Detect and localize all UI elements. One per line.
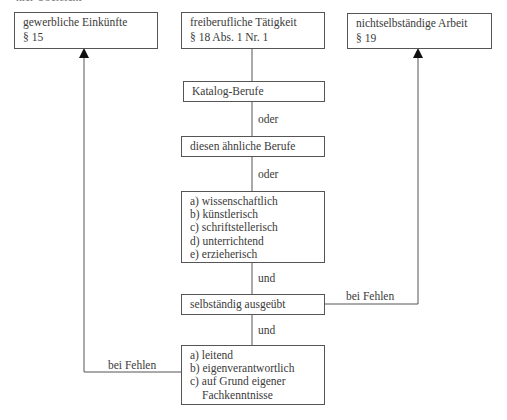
box-aehnliche-berufe: diesen ähnliche Berufe [181, 136, 325, 157]
box-text: Katalog-Berufe [192, 84, 316, 99]
criterion-item: a) wissenschaftlich [190, 195, 316, 208]
arrowhead-up-icon [79, 48, 89, 58]
box-text: selbständig ausgeübt [190, 297, 316, 312]
box-leitend-eigenverantwortlich: a) leitend b) eigenverantwortlich c) auf… [181, 345, 325, 405]
arrowhead-up-icon [413, 48, 423, 58]
criterion-item: a) leitend [190, 349, 316, 362]
criterion-item: c) schriftstellerisch [190, 221, 316, 234]
box-paragraph: § 15 [23, 30, 149, 45]
criterion-item: d) unterrichtend [190, 235, 316, 248]
box-taetigkeitsmerkmale: a) wissenschaftlich b) künstlerisch c) s… [181, 191, 325, 263]
criterion-item: c) auf Grund eigener [190, 375, 316, 388]
connector-label-bei-fehlen-right: bei Fehlen [346, 289, 394, 303]
box-nichtselbstaendige-arbeit: nichtselbständige Arbeit § 19 [347, 13, 492, 49]
box-selbstaendig-ausgeuebt: selbständig ausgeübt [181, 294, 325, 315]
box-text: diesen ähnliche Berufe [190, 139, 316, 154]
criterion-item: b) eigenverantwortlich [190, 362, 316, 375]
box-gewerbliche-einkuenfte: gewerbliche Einkünfte § 15 [14, 12, 158, 49]
connector-label-bei-fehlen-left: bei Fehlen [108, 358, 156, 372]
box-paragraph: § 18 Abs. 1 Nr. 1 [190, 30, 316, 45]
connector-label-und: und [258, 271, 275, 285]
connector-label-und: und [258, 323, 275, 337]
connector-label-oder: oder [258, 112, 278, 126]
box-title: freiberufliche Tätigkeit [190, 15, 316, 30]
criterion-item-continuation: Fachkenntnisse [190, 389, 316, 402]
connector-label-oder: oder [258, 167, 278, 181]
box-katalog-berufe: Katalog-Berufe [183, 81, 325, 102]
box-title: gewerbliche Einkünfte [23, 15, 149, 30]
box-title: nichtselbständige Arbeit [356, 16, 483, 31]
criterion-item: b) künstlerisch [190, 208, 316, 221]
criterion-item: e) erzieherisch [190, 248, 316, 261]
box-freiberufliche-taetigkeit: freiberufliche Tätigkeit § 18 Abs. 1 Nr.… [181, 12, 325, 49]
box-paragraph: § 19 [356, 31, 483, 46]
